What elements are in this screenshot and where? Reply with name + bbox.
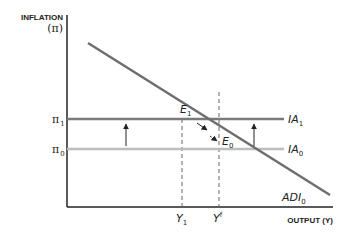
y-axis-symbol: (π) — [47, 22, 63, 35]
pi0-label: π0 — [52, 143, 65, 158]
move-arrow-2 — [210, 136, 217, 141]
e1-label: E1 — [180, 103, 191, 118]
pi1-label: π1 — [52, 113, 65, 128]
adi0-label: ADI0 — [281, 191, 306, 206]
ia0-label: IA0 — [288, 143, 303, 158]
e0-label: E0 — [222, 135, 233, 150]
ia1-label: IA1 — [288, 113, 303, 128]
ad-ia-diagram: INFLATION (π) OUTPUT (Y) π1 π0 Y1 Yf E1 … — [0, 0, 347, 237]
y1-label: Y1 — [176, 212, 187, 227]
yf-label: Yf — [213, 211, 223, 225]
move-arrow-1 — [197, 123, 207, 130]
y-axis-title: INFLATION — [21, 13, 63, 22]
x-axis-title: OUTPUT (Y) — [287, 216, 333, 225]
